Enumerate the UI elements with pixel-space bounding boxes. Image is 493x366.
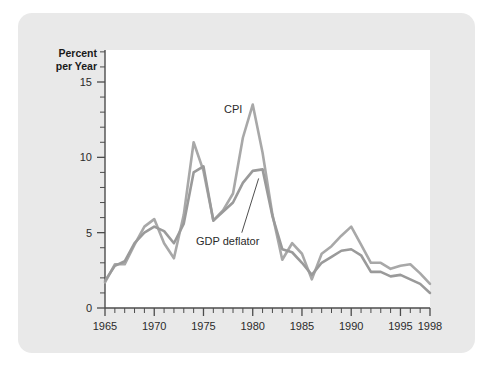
x-tick-label: 1995 [388,320,412,332]
y-tick-label: 15 [80,76,92,88]
figure-root: 051015 19651970197519801985199019951998 … [0,0,493,366]
x-axis-ticks [105,308,430,316]
x-axis-tick-labels: 19651970197519801985199019951998 [93,320,442,332]
y-tick-label: 0 [86,302,92,314]
x-tick-label: 1980 [240,320,264,332]
x-tick-label: 1998 [418,320,442,332]
y-axis-tick-labels: 051015 [80,76,92,314]
series-lines [105,105,430,293]
x-tick-label: 1985 [290,320,314,332]
inflation-line-chart: 051015 19651970197519801985199019951998 … [0,0,493,366]
y-tick-label: 5 [86,227,92,239]
y-tick-label: 10 [80,151,92,163]
x-tick-label: 1965 [93,320,117,332]
y-axis-title-line1: Percent [58,47,97,59]
x-tick-label: 1975 [191,320,215,332]
x-tick-label: 1990 [339,320,363,332]
gdp-deflator-series-label: GDP deflator [196,235,260,247]
x-tick-label: 1970 [142,320,166,332]
y-axis-ticks [97,52,105,308]
cpi-series-label: CPI [224,103,242,115]
y-axis-title-line2: per Year [56,60,97,72]
gdp-deflator-leader-line [242,178,259,232]
